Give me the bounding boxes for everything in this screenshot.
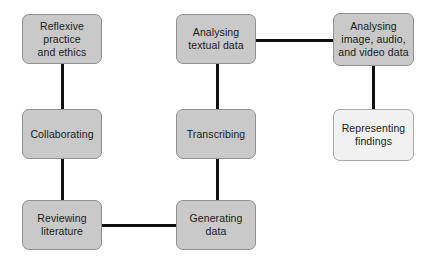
node-label: Analysing image, audio, and video data (338, 20, 408, 59)
node-analysing-image-audio-and-video-data[interactable]: Analysing image, audio, and video data (333, 13, 414, 66)
node-label: Representing findings (342, 122, 406, 148)
node-label: Reviewing literature (37, 212, 86, 238)
node-label: Analysing textual data (188, 26, 244, 52)
edge-reviewing-literature-to-generating-data (100, 224, 180, 227)
node-transcribing[interactable]: Transcribing (176, 109, 256, 159)
node-label: Transcribing (187, 128, 246, 141)
edge-analysing-textual-data-to-analysing-image-audio-and-video-data (254, 39, 335, 42)
node-generating-data[interactable]: Generating data (176, 200, 256, 250)
node-representing-findings[interactable]: Representing findings (333, 109, 414, 161)
edge-reflexive-to-collaborating (61, 63, 64, 111)
edge-collaborating-to-reviewing-literature (61, 158, 64, 203)
node-label: Collaborating (30, 128, 93, 141)
node-label: Reflexive practice and ethics (38, 20, 87, 59)
edge-generating-data-to-transcribing (216, 158, 219, 203)
node-reflexive-practice-and-ethics[interactable]: Reflexive practice and ethics (22, 14, 102, 64)
flow-diagram: Reflexive practice and ethics Collaborat… (0, 0, 442, 266)
node-collaborating[interactable]: Collaborating (22, 109, 102, 159)
edge-analysing-image-audio-and-video-data-to-representing-findings (372, 64, 375, 111)
edge-transcribing-to-analysing-textual-data (216, 63, 219, 111)
node-reviewing-literature[interactable]: Reviewing literature (22, 200, 102, 250)
node-label: Generating data (190, 212, 243, 238)
node-analysing-textual-data[interactable]: Analysing textual data (176, 14, 256, 64)
